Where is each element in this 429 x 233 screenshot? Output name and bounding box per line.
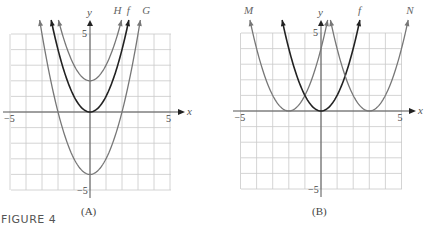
curve-label-g: G <box>142 4 150 16</box>
panel-caption: (B) <box>312 205 327 218</box>
figure-canvas: xy−555−5HfG(A) xy−555−5MfN(B) <box>0 0 429 233</box>
figure-title: FIGURE 4 <box>1 213 56 226</box>
x-tick-label: 5 <box>166 113 171 124</box>
curve-m: M <box>243 4 329 111</box>
curve-f: f <box>50 4 132 112</box>
curve-label-f: f <box>358 4 363 16</box>
x-axis-arrow-icon <box>409 108 416 114</box>
panel-caption: (A) <box>81 205 97 218</box>
x-axis-label: x <box>186 105 192 117</box>
curve-label-m: M <box>243 4 254 16</box>
y-axis-label: y <box>317 6 323 18</box>
y-tick-label: 5 <box>313 27 318 38</box>
x-tick-label: −5 <box>235 112 246 123</box>
curve-g: G <box>38 4 150 174</box>
y-tick-label: −5 <box>77 185 88 196</box>
y-axis-label: y <box>86 6 92 18</box>
curve-f: f <box>281 4 363 111</box>
curve-label-f: f <box>127 4 132 16</box>
y-tick-label: 5 <box>82 28 87 39</box>
x-tick-label: 5 <box>398 112 403 123</box>
y-tick-label: −5 <box>308 184 319 195</box>
x-axis-arrow-icon <box>178 109 185 115</box>
x-tick-label: −5 <box>4 113 15 124</box>
panel-b: xy−555−5MfN(B) <box>233 4 423 218</box>
y-axis-arrow-icon <box>87 20 93 26</box>
y-axis-arrow-icon <box>318 20 324 26</box>
arrowhead-icon <box>38 20 43 26</box>
curve-label-n: N <box>405 4 414 16</box>
arrowhead-icon <box>137 20 142 26</box>
panel-a: xy−555−5HfG(A) <box>3 4 192 218</box>
x-axis-label: x <box>417 104 423 116</box>
curve-label-h: H <box>113 4 123 16</box>
